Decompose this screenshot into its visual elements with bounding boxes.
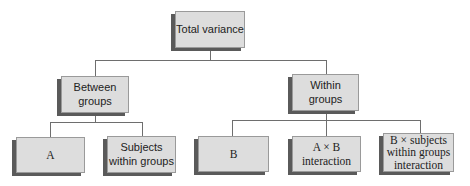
connector-to-b [232, 120, 233, 136]
connector-within-down [326, 111, 327, 120]
node-a: A [16, 137, 85, 173]
node-label: A [46, 148, 54, 162]
node-label: A × B interaction [302, 140, 351, 169]
node-label: Total variance [176, 23, 244, 37]
node-label: Within groups [309, 79, 343, 107]
connector-between-down [95, 113, 96, 122]
connector-to-a [50, 122, 51, 137]
connector-to-bxsubjects [420, 120, 421, 133]
node-total-variance: Total variance [175, 11, 245, 48]
node-label: B [230, 147, 238, 161]
connector-between-horizontal [50, 122, 143, 123]
node-label: Between groups [74, 81, 117, 109]
node-b: B [198, 136, 269, 172]
node-within-groups: Within groups [292, 74, 359, 111]
connector-to-axb [326, 120, 327, 136]
node-subjects-within-groups: Subjects within groups [107, 136, 176, 173]
node-b-x-subjects-interaction: B × subjects within groups interaction [383, 133, 454, 172]
connector-root-down [210, 48, 211, 60]
connector-to-within [326, 60, 327, 74]
connector-to-between [95, 60, 96, 76]
node-a-x-b-interaction: A × B interaction [292, 136, 361, 172]
node-label: Subjects within groups [109, 141, 174, 169]
node-between-groups: Between groups [61, 76, 129, 113]
connector-root-horizontal [95, 60, 327, 61]
variance-partition-tree: Total variance Between groups Within gro… [0, 0, 470, 186]
node-label: B × subjects within groups interaction [387, 134, 451, 172]
connector-to-subjects [142, 122, 143, 136]
